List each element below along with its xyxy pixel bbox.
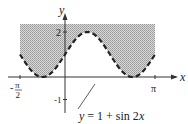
- x-tick-label-pi: π: [151, 83, 156, 94]
- x-tick-label-neg-sign: -: [10, 82, 13, 93]
- label-pointer: [78, 84, 95, 109]
- eq-lhs: y: [78, 109, 85, 123]
- y-tick-label-2: 2: [56, 27, 61, 38]
- y-axis-label: y: [58, 3, 65, 17]
- x-tick-label-neg-pi-den: 2: [16, 90, 21, 100]
- x-axis-label: x: [179, 70, 186, 84]
- curve-equation-label: y= 1 + sin 2x: [78, 109, 145, 123]
- graph-figure: y x 2 -1 π - π 2 y= 1 + sin 2x: [0, 0, 188, 124]
- eq-var: x: [138, 109, 145, 123]
- x-axis-arrow-icon: [171, 75, 178, 80]
- y-tick-label-neg1: -1: [54, 95, 62, 105]
- eq-rhs: = 1 + sin 2: [87, 109, 139, 123]
- x-tick-label-neg-pi-num: π: [15, 80, 20, 90]
